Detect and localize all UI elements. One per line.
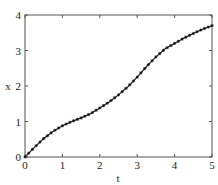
x-axis-label: t — [116, 172, 119, 184]
asterisk-marker — [38, 140, 41, 143]
asterisk-marker — [106, 102, 109, 105]
y-tick-labels: 01234 — [16, 9, 22, 163]
asterisk-marker — [132, 79, 135, 82]
asterisk-marker — [76, 118, 79, 121]
asterisk-marker — [65, 122, 68, 125]
y-axis-label: x — [5, 80, 11, 92]
y-tick-label: 4 — [16, 9, 22, 21]
asterisk-marker — [192, 32, 195, 35]
asterisk-marker — [68, 121, 71, 124]
asterisk-marker — [87, 113, 90, 116]
asterisk-marker — [143, 67, 146, 70]
plot-area — [25, 15, 212, 157]
asterisk-marker — [173, 42, 176, 45]
x-tick-label: 0 — [22, 159, 28, 171]
asterisk-marker — [102, 104, 105, 107]
y-tick-label: 2 — [16, 80, 22, 92]
y-tick-label: 0 — [16, 151, 22, 163]
asterisk-marker — [91, 111, 94, 114]
asterisk-marker — [94, 109, 97, 112]
asterisk-marker — [166, 46, 169, 49]
asterisk-marker — [136, 76, 139, 79]
asterisk-marker — [151, 59, 154, 62]
asterisk-marker — [124, 87, 127, 90]
asterisk-marker — [117, 93, 120, 96]
asterisk-marker — [195, 30, 198, 33]
line-chart: 012345 01234 t x — [0, 0, 218, 185]
asterisk-marker — [46, 134, 49, 137]
asterisk-marker — [83, 115, 86, 118]
x-tick-labels: 012345 — [22, 159, 215, 171]
y-tick-label: 3 — [16, 45, 22, 57]
x-tick-label: 3 — [134, 159, 140, 171]
asterisk-marker — [162, 49, 165, 52]
asterisk-marker — [72, 119, 75, 122]
asterisk-marker — [109, 99, 112, 102]
x-tick-label: 5 — [209, 159, 215, 171]
x-tick-label: 4 — [172, 159, 178, 171]
y-tick-label: 1 — [16, 116, 22, 128]
x-tick-label: 2 — [97, 159, 103, 171]
x-tick-label: 1 — [60, 159, 66, 171]
